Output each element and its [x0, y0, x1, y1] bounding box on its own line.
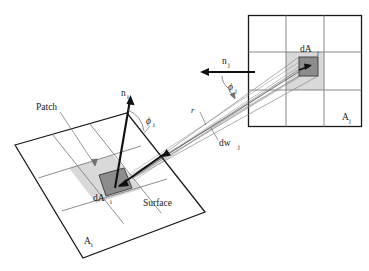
differential-area-j-sub: j: [316, 49, 319, 56]
leader-phi-i: [144, 126, 150, 133]
phi-i-sub: i: [153, 121, 155, 128]
area-j-label-sub: j: [348, 117, 351, 124]
area-i-label-text: A: [84, 236, 91, 246]
diagram-canvas: Patch Surface A i A j dA i dA j n i: [0, 0, 369, 271]
normal-j-arrow: [200, 68, 255, 76]
normal-i-text: n: [121, 88, 126, 98]
distance-r-label: r: [191, 105, 195, 115]
phi-j-sub: j: [234, 87, 237, 94]
patch-label: Patch: [36, 102, 57, 112]
normal-j-label: n j: [222, 56, 230, 68]
leader-dw-j: [211, 128, 218, 140]
area-i-label: A i: [84, 236, 93, 248]
solid-angle-sub: j: [237, 143, 240, 150]
radiosity-geometry-figure: Patch Surface A i A j dA i dA j n i: [0, 0, 369, 271]
phi-i-label: ϕ i: [146, 116, 155, 128]
phi-j-label: ϕ j: [228, 82, 237, 94]
area-j-label: A j: [342, 112, 351, 124]
leader-r: [200, 112, 206, 125]
normal-i-sub: i: [127, 93, 129, 100]
phi-i-angle-arc: [128, 110, 144, 131]
area-i-label-sub: i: [91, 241, 93, 248]
area-j-label-text: A: [342, 112, 349, 122]
normal-j-text: n: [222, 56, 227, 66]
normal-j-sub: j: [227, 61, 230, 68]
leader-patch: [60, 112, 95, 165]
differential-area-j-text: dA: [300, 44, 312, 54]
surface-label: Surface: [143, 198, 172, 208]
solid-angle-label: dw j: [219, 138, 240, 150]
solid-angle-text: dw: [219, 138, 231, 148]
differential-area-i-sub: i: [110, 198, 112, 205]
normal-i-label: n i: [121, 88, 129, 100]
phi-i-text: ϕ: [146, 116, 151, 126]
phi-j-text: ϕ: [228, 82, 233, 92]
surface-i-group: [15, 113, 205, 258]
differential-area-i-text: dA: [93, 193, 105, 203]
